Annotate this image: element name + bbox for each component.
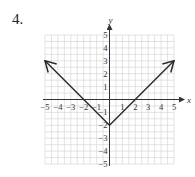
svg-text:4: 4 (159, 102, 164, 112)
svg-text:3: 3 (146, 102, 150, 112)
svg-text:−5: −5 (40, 102, 49, 112)
svg-text:3: 3 (103, 56, 107, 66)
svg-text:−4: −4 (98, 146, 108, 156)
svg-text:−3: −3 (98, 133, 107, 143)
svg-text:x: x (186, 95, 191, 105)
svg-text:2: 2 (133, 102, 137, 112)
svg-text:−5: −5 (98, 159, 107, 169)
svg-text:−4: −4 (53, 102, 63, 112)
svg-text:1: 1 (103, 82, 107, 92)
svg-text:−3: −3 (66, 102, 75, 112)
svg-text:y: y (108, 15, 113, 25)
svg-text:5: 5 (172, 102, 176, 112)
axes: xy (43, 15, 191, 166)
svg-text:5: 5 (103, 30, 107, 40)
coordinate-graph: xy −5−4−3−2−11234554321−1−2−3−4−5 (0, 0, 195, 177)
svg-text:2: 2 (103, 69, 107, 79)
